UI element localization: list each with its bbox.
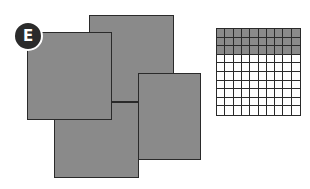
- grid-cell: [275, 106, 283, 115]
- grid-cell-shaded: [250, 29, 258, 38]
- grid-cell: [275, 63, 283, 72]
- grid-cell-shaded: [283, 29, 291, 38]
- hundred-grid: [216, 28, 301, 116]
- grid-cell: [259, 81, 267, 90]
- grid-cell: [234, 106, 242, 115]
- grid-cell: [259, 98, 267, 107]
- grid-cell: [292, 81, 300, 90]
- grid-cell: [283, 106, 291, 115]
- grid-cell: [225, 106, 233, 115]
- grid-cell: [234, 98, 242, 107]
- square-right: [138, 73, 201, 160]
- grid-cell-shaded: [234, 38, 242, 47]
- grid-cell: [259, 55, 267, 64]
- grid-cell: [225, 55, 233, 64]
- grid-cell: [292, 106, 300, 115]
- grid-cell: [242, 106, 250, 115]
- grid-cell: [292, 63, 300, 72]
- grid-cell: [267, 98, 275, 107]
- grid-cell: [267, 89, 275, 98]
- grid-cell: [217, 72, 225, 81]
- grid-cell-shaded: [267, 46, 275, 55]
- grid-cell-shaded: [250, 38, 258, 47]
- grid-cell-shaded: [259, 46, 267, 55]
- grid-cell: [242, 81, 250, 90]
- grid-cell: [250, 106, 258, 115]
- grid-cell: [283, 63, 291, 72]
- grid-cell-shaded: [283, 46, 291, 55]
- grid-cell: [259, 63, 267, 72]
- grid-cell: [259, 72, 267, 81]
- grid-cell-shaded: [234, 29, 242, 38]
- grid-cell-shaded: [234, 46, 242, 55]
- grid-cell: [267, 106, 275, 115]
- grid-cell: [242, 72, 250, 81]
- grid-cell-shaded: [275, 46, 283, 55]
- grid-cell: [217, 81, 225, 90]
- grid-cell: [217, 55, 225, 64]
- grid-cell: [250, 63, 258, 72]
- grid-cell: [234, 72, 242, 81]
- grid-cell-shaded: [259, 29, 267, 38]
- grid-cell: [250, 89, 258, 98]
- grid-cell: [217, 63, 225, 72]
- grid-cell: [259, 89, 267, 98]
- grid-cell: [225, 63, 233, 72]
- grid-cell-shaded: [267, 38, 275, 47]
- grid-cell-shaded: [275, 38, 283, 47]
- grid-cell-shaded: [217, 29, 225, 38]
- grid-cell: [275, 89, 283, 98]
- grid-cell: [250, 98, 258, 107]
- grid-cell: [259, 106, 267, 115]
- grid-cell-shaded: [225, 29, 233, 38]
- grid-cell: [225, 81, 233, 90]
- grid-cell: [234, 63, 242, 72]
- grid-cell: [292, 89, 300, 98]
- grid-cell-shaded: [242, 46, 250, 55]
- grid-cell: [225, 72, 233, 81]
- grid-cell: [250, 72, 258, 81]
- grid-cell-shaded: [292, 29, 300, 38]
- grid-cell: [292, 55, 300, 64]
- grid-cell: [217, 89, 225, 98]
- grid-cell: [275, 98, 283, 107]
- grid-cell: [242, 63, 250, 72]
- grid-cell: [234, 55, 242, 64]
- grid-cell-shaded: [217, 46, 225, 55]
- grid-cell-shaded: [275, 29, 283, 38]
- grid-cell: [283, 89, 291, 98]
- grid-cell: [225, 89, 233, 98]
- grid-cell-shaded: [292, 46, 300, 55]
- grid-cell: [250, 55, 258, 64]
- grid-cell: [283, 72, 291, 81]
- grid-cell: [217, 98, 225, 107]
- grid-cell-shaded: [259, 38, 267, 47]
- grid-cell: [242, 98, 250, 107]
- grid-cell: [242, 55, 250, 64]
- grid-cell-shaded: [225, 46, 233, 55]
- grid-cell: [283, 98, 291, 107]
- grid-cell: [292, 72, 300, 81]
- grid-cell-shaded: [292, 38, 300, 47]
- grid-cell: [267, 63, 275, 72]
- grid-cell: [234, 81, 242, 90]
- grid-cell: [267, 72, 275, 81]
- grid-cell-shaded: [250, 46, 258, 55]
- grid-cell: [242, 89, 250, 98]
- grid-cell-shaded: [242, 29, 250, 38]
- grid-cell-shaded: [225, 38, 233, 47]
- figure-label-badge: E: [13, 21, 43, 51]
- grid-cell-shaded: [217, 38, 225, 47]
- grid-cell: [283, 81, 291, 90]
- grid-cell-shaded: [267, 29, 275, 38]
- grid-cell: [267, 81, 275, 90]
- grid-cell-shaded: [242, 38, 250, 47]
- grid-cell-shaded: [283, 38, 291, 47]
- grid-cell: [225, 98, 233, 107]
- grid-cell: [283, 55, 291, 64]
- grid-cell: [217, 106, 225, 115]
- grid-cell: [275, 81, 283, 90]
- grid-cell: [250, 81, 258, 90]
- grid-cell: [275, 55, 283, 64]
- grid-cell: [275, 72, 283, 81]
